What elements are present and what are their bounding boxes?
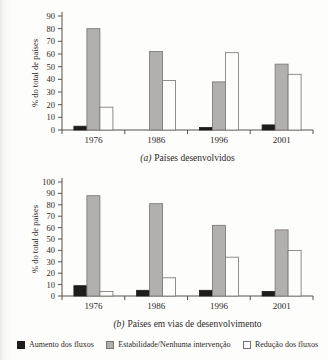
x-tick-label: 2001 <box>273 301 291 311</box>
legend: Aumento dos fluxos Estabilidade/Nenhuma … <box>0 340 328 349</box>
bar-2001-series-1 <box>275 230 288 296</box>
bar-1986-series-0 <box>137 290 150 296</box>
y-tick-label: 60 <box>47 223 56 233</box>
bar-1986-series-1 <box>150 52 163 131</box>
y-tick-label: 50 <box>47 234 56 244</box>
y-tick-label: 10 <box>47 112 56 122</box>
legend-item-reducao: Redução dos fluxos <box>243 340 318 349</box>
x-tick-label: 2001 <box>273 135 291 145</box>
y-tick-label: 80 <box>47 200 56 210</box>
figure-page: 0102030405060708090% do total de países1… <box>0 0 328 360</box>
bar-1996-series-1 <box>212 225 225 296</box>
legend-label-reducao: Redução dos fluxos <box>255 340 318 349</box>
chart-b-caption-letter: (b) <box>113 319 124 329</box>
chart-a-caption-text: Países desenvolvidos <box>154 153 234 163</box>
bar-1976-series-0 <box>74 126 87 130</box>
x-tick-label: 1976 <box>84 301 103 311</box>
bar-1996-series-2 <box>225 53 238 130</box>
y-tick-label: 10 <box>47 280 56 290</box>
chart-a-caption: (a)Países desenvolvidos <box>62 151 313 165</box>
y-tick-label: 100 <box>42 177 55 187</box>
bar-1976-series-2 <box>100 291 113 296</box>
x-tick-label: 1996 <box>210 301 229 311</box>
legend-item-aumento: Aumento dos fluxos <box>17 340 94 349</box>
bar-1976-series-1 <box>87 29 100 130</box>
x-tick-label: 1986 <box>147 301 166 311</box>
bar-1986-series-1 <box>150 204 163 296</box>
black-square-swatch-icon <box>17 341 25 349</box>
y-tick-label: 90 <box>47 188 56 198</box>
white-square-swatch-icon <box>243 341 251 349</box>
legend-item-estabilidade: Estabilidade/Nenhuma intervenção <box>106 340 230 349</box>
chart-b-caption: (b)Países em vias de desenvolvimento <box>62 317 313 331</box>
bar-1996-series-0 <box>199 128 212 131</box>
y-tick-label: 40 <box>47 74 56 84</box>
x-tick-label: 1976 <box>84 135 103 145</box>
legend-label-estabilidade: Estabilidade/Nenhuma intervenção <box>118 340 230 349</box>
bar-chart-developed-countries: 0102030405060708090% do total de países1… <box>0 6 328 148</box>
y-tick-label: 0 <box>51 125 55 135</box>
bar-2001-series-0 <box>262 291 275 296</box>
bar-chart-developing-countries: 0102030405060708090100% do total de país… <box>0 172 328 314</box>
bar-1986-series-2 <box>163 278 176 296</box>
y-tick-label: 50 <box>47 62 56 72</box>
y-tick-label: 70 <box>47 36 56 46</box>
y-tick-label: 60 <box>47 49 56 59</box>
chart-b-caption-text: Países em vias de desenvolvimento <box>128 319 262 329</box>
bar-2001-series-2 <box>288 74 301 130</box>
x-tick-label: 1986 <box>147 135 166 145</box>
y-tick-label: 0 <box>51 291 55 301</box>
y-tick-label: 70 <box>47 211 56 221</box>
y-axis-label: % do total de países <box>30 39 40 107</box>
y-tick-label: 80 <box>47 24 56 34</box>
y-tick-label: 30 <box>47 87 56 97</box>
y-tick-label: 90 <box>47 11 56 21</box>
bar-1976-series-1 <box>87 196 100 296</box>
bar-1976-series-2 <box>100 107 113 130</box>
bar-2001-series-0 <box>262 125 275 130</box>
bar-1996-series-0 <box>199 290 212 296</box>
bar-2001-series-2 <box>288 250 301 296</box>
bar-2001-series-1 <box>275 64 288 130</box>
y-tick-label: 30 <box>47 257 56 267</box>
y-tick-label: 20 <box>47 100 56 110</box>
bar-1976-series-0 <box>74 286 87 296</box>
legend-label-aumento: Aumento dos fluxos <box>29 340 94 349</box>
y-tick-label: 40 <box>47 245 56 255</box>
gray-square-swatch-icon <box>106 341 114 349</box>
bar-1996-series-2 <box>225 257 238 296</box>
bar-1996-series-1 <box>212 82 225 130</box>
chart-a-caption-letter: (a) <box>140 153 151 163</box>
y-axis-label: % do total de países <box>30 205 40 273</box>
x-tick-label: 1996 <box>210 135 229 145</box>
bar-1986-series-2 <box>163 81 176 130</box>
y-tick-label: 20 <box>47 268 56 278</box>
